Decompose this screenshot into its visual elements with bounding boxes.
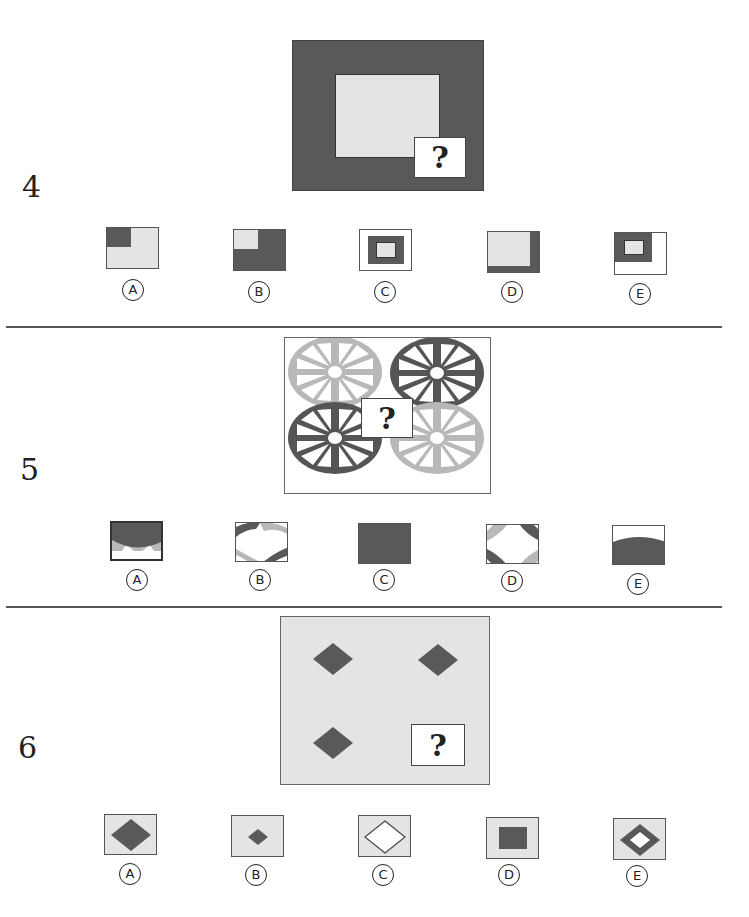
diamond-top-right (418, 644, 458, 676)
option-b[interactable] (233, 229, 286, 271)
dark-square (499, 827, 527, 849)
option-e-graphic (613, 526, 665, 565)
option-a[interactable] (110, 521, 163, 561)
option-a[interactable] (106, 227, 159, 269)
section-divider (6, 326, 722, 328)
option-b[interactable] (231, 815, 284, 857)
puzzle-figure: ? (280, 616, 490, 785)
option-e-label: E (626, 865, 648, 887)
option-a-label: A (126, 569, 148, 591)
light-center (624, 240, 644, 255)
option-a-graphic (112, 523, 163, 561)
light-center (376, 242, 396, 258)
option-c-graphic (359, 816, 411, 857)
light-corner-block (234, 230, 258, 249)
missing-piece-box: ? (411, 724, 465, 766)
question-number: 4 (22, 172, 41, 202)
question-number: 6 (18, 733, 37, 763)
section-divider (6, 606, 722, 608)
option-e[interactable] (614, 232, 667, 275)
diamond-bottom-left (313, 727, 353, 759)
option-b-graphic (232, 816, 284, 857)
option-c-label: C (374, 281, 396, 303)
missing-piece-box: ? (361, 398, 413, 438)
option-e[interactable] (613, 818, 666, 860)
light-block (488, 232, 530, 266)
option-b-graphic (236, 523, 288, 562)
option-e[interactable] (612, 525, 665, 565)
option-e-label: E (627, 573, 649, 595)
dark-corner-block (107, 228, 131, 247)
option-a[interactable] (104, 814, 157, 855)
option-c[interactable] (359, 229, 412, 271)
option-d-graphic (487, 525, 539, 564)
missing-piece-box: ? (414, 137, 466, 178)
option-c-label: C (372, 864, 394, 886)
option-d[interactable] (486, 524, 539, 564)
option-b-label: B (245, 864, 267, 886)
option-b[interactable] (235, 522, 288, 562)
diamond-top-left (313, 643, 353, 675)
option-c[interactable] (358, 815, 411, 857)
option-e-label: E (629, 283, 651, 305)
option-d-label: D (498, 864, 520, 886)
option-c[interactable] (358, 523, 411, 564)
option-e-graphic (614, 819, 666, 860)
option-d-label: D (501, 570, 523, 592)
option-d[interactable] (487, 231, 540, 273)
option-b-label: B (249, 569, 271, 591)
option-a-graphic (105, 815, 157, 855)
option-a-label: A (122, 279, 144, 301)
puzzle-figure: ? (284, 337, 491, 494)
option-d-label: D (501, 281, 523, 303)
puzzle-figure: ? (292, 40, 484, 191)
option-c-label: C (373, 569, 395, 591)
option-d[interactable] (486, 817, 539, 859)
option-a-label: A (119, 863, 141, 885)
option-b-label: B (248, 281, 270, 303)
question-number: 5 (20, 455, 39, 485)
